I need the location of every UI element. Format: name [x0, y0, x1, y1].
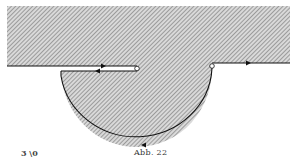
slit-end-circle	[135, 66, 140, 71]
right-junction-circle	[210, 64, 215, 69]
hatched-region	[7, 6, 290, 147]
contour-diagram	[0, 0, 293, 161]
margin-note: 3 \0	[21, 148, 38, 158]
figure-caption: Abb. 22	[134, 148, 167, 157]
